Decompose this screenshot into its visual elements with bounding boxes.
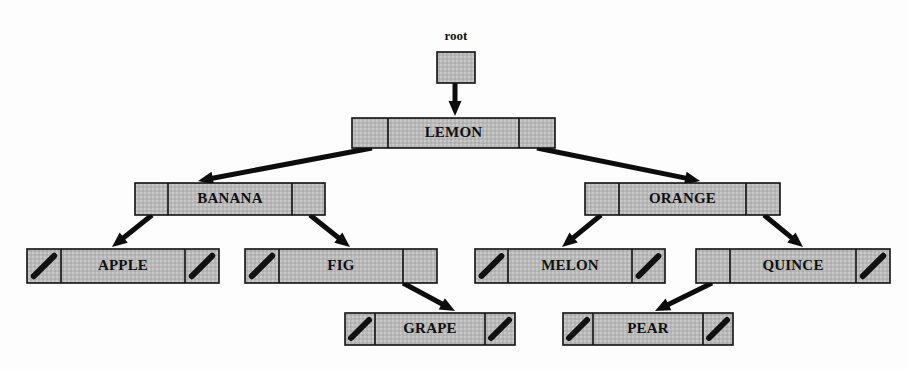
- root-pointer-label: root: [445, 28, 469, 43]
- edge-quince-pear: [655, 283, 712, 311]
- node-apple[interactable]: APPLE: [27, 249, 219, 283]
- tree-canvas: LEMONBANANAORANGEAPPLEFIGMELONQUINCEGRAP…: [0, 0, 908, 369]
- edge-lemon-banana: [198, 148, 372, 185]
- node-lemon[interactable]: LEMON: [352, 118, 555, 148]
- node-banana[interactable]: BANANA: [135, 183, 325, 215]
- node-root-box[interactable]: [437, 52, 475, 83]
- node-key-label: BANANA: [197, 190, 262, 206]
- node-key-label: GRAPE: [403, 320, 457, 336]
- node-melon[interactable]: MELON: [475, 249, 665, 283]
- node-fig[interactable]: FIG: [245, 249, 437, 283]
- edge-banana-fig: [310, 215, 350, 247]
- root-box-cell: [437, 52, 475, 83]
- nodes-layer: LEMONBANANAORANGEAPPLEFIGMELONQUINCEGRAP…: [27, 52, 890, 345]
- edge-orange-quince: [764, 215, 803, 247]
- node-key-label: FIG: [327, 257, 354, 273]
- edge-orange-melon: [562, 215, 601, 247]
- node-key-label: ORANGE: [649, 190, 716, 206]
- node-key-label: QUINCE: [762, 257, 823, 273]
- node-key-label: PEAR: [627, 320, 669, 336]
- edge-fig-grape: [403, 283, 455, 311]
- edge-banana-apple: [112, 215, 152, 247]
- node-orange[interactable]: ORANGE: [585, 183, 780, 215]
- node-pear[interactable]: PEAR: [563, 313, 733, 345]
- node-key-label: APPLE: [98, 257, 148, 273]
- edge-lemon-orange: [537, 148, 700, 184]
- node-key-label: LEMON: [425, 124, 483, 140]
- node-key-label: MELON: [541, 257, 599, 273]
- node-grape[interactable]: GRAPE: [345, 313, 515, 345]
- node-quince[interactable]: QUINCE: [696, 249, 890, 283]
- binary-tree-diagram: LEMONBANANAORANGEAPPLEFIGMELONQUINCEGRAP…: [0, 0, 908, 369]
